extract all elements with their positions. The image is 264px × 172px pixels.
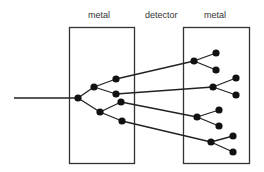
leaf-node bbox=[212, 66, 219, 73]
vertex-node bbox=[90, 83, 97, 90]
vertex-node bbox=[112, 75, 119, 82]
vertex-node bbox=[118, 117, 125, 124]
leaf-node bbox=[232, 91, 239, 98]
vertex-node bbox=[207, 138, 214, 145]
secondary-track-line bbox=[116, 61, 194, 79]
leaf-node bbox=[215, 106, 222, 113]
leaf-node bbox=[229, 148, 236, 155]
secondary-track-line bbox=[121, 102, 197, 117]
leaf-node bbox=[232, 74, 239, 81]
right-metal-block bbox=[184, 28, 250, 164]
vertex-node bbox=[74, 94, 81, 101]
vertex-node bbox=[193, 113, 200, 120]
vertex-node bbox=[96, 108, 103, 115]
leaf-node bbox=[229, 132, 236, 139]
branch-line bbox=[211, 142, 233, 152]
diagram-canvas bbox=[0, 0, 264, 172]
vertex-node bbox=[190, 57, 197, 64]
branch-line bbox=[78, 98, 100, 112]
branch-line bbox=[213, 78, 236, 87]
secondary-track-line bbox=[122, 121, 211, 142]
secondary-track-line bbox=[116, 87, 213, 94]
leaf-node bbox=[215, 122, 222, 129]
vertex-node bbox=[117, 98, 124, 105]
branch-line bbox=[213, 87, 236, 95]
vertex-node bbox=[112, 90, 119, 97]
vertex-node bbox=[209, 83, 216, 90]
leaf-node bbox=[212, 49, 219, 56]
